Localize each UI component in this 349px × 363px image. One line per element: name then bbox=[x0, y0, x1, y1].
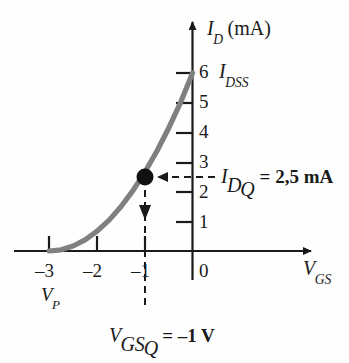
idss-label: IDSS bbox=[219, 61, 249, 86]
vgsq-symbol-sub-gs: GS bbox=[120, 333, 144, 355]
x-axis-title: VGS bbox=[303, 258, 332, 283]
transfer-curve bbox=[49, 73, 192, 251]
x-axis-title-main: V bbox=[303, 257, 315, 279]
y-tick-label-2: 2 bbox=[199, 182, 209, 201]
jfet-transfer-curve-figure: ID(mA) VGS 6 5 4 3 2 1 IDSS –3 –2 –1 0 V… bbox=[0, 0, 349, 363]
idq-symbol-sub-q: Q bbox=[240, 178, 254, 200]
y-axis-title-sub: D bbox=[213, 32, 223, 47]
vgsq-value: = –1 V bbox=[162, 325, 215, 346]
vgsq-annotation: VGSQ= –1 V bbox=[109, 325, 215, 349]
vp-label: VP bbox=[41, 285, 61, 309]
x-tick-label-minus1: –1 bbox=[131, 261, 150, 280]
idq-annotation: IDQ= 2,5 mA bbox=[221, 166, 333, 190]
y-tick-label-1: 1 bbox=[199, 212, 209, 231]
x-tick-label-zero: 0 bbox=[199, 261, 209, 280]
y-axis-title-unit: (mA) bbox=[228, 17, 271, 39]
y-tick-label-6: 6 bbox=[199, 62, 209, 81]
y-tick-label-5: 5 bbox=[199, 92, 209, 111]
y-axis-title: ID(mA) bbox=[207, 18, 271, 43]
idss-label-sub: DSS bbox=[225, 75, 248, 90]
x-tick-label-minus3: –3 bbox=[35, 261, 54, 280]
idq-value: = 2,5 mA bbox=[260, 166, 334, 187]
vp-label-main: V bbox=[41, 284, 53, 305]
vp-label-sub: P bbox=[52, 297, 60, 312]
y-tick-label-3: 3 bbox=[199, 152, 209, 171]
y-tick-label-4: 4 bbox=[199, 122, 209, 141]
x-tick-label-minus2: –2 bbox=[83, 261, 102, 280]
x-axis-title-sub: GS bbox=[315, 272, 332, 287]
vgsq-dashed-arrowhead bbox=[139, 205, 151, 220]
vgsq-symbol-sub-q: Q bbox=[144, 337, 158, 359]
q-point-marker bbox=[137, 169, 154, 186]
